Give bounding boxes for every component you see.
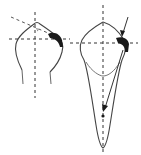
tooth-diagram	[0, 0, 141, 155]
right-tooth	[70, 5, 138, 152]
left-curved-mark	[48, 33, 63, 47]
root-arrow-head	[102, 104, 108, 112]
left-tooth-neck-lines	[22, 70, 51, 84]
root-point-marker	[101, 114, 104, 117]
force-arrow-line	[123, 17, 128, 33]
diagram-canvas	[0, 0, 141, 155]
left-tooth-crown-outline	[15, 23, 62, 73]
left-small-tick-mark	[36, 29, 38, 31]
left-tooth	[9, 12, 70, 98]
right-dark-mark	[116, 37, 129, 52]
